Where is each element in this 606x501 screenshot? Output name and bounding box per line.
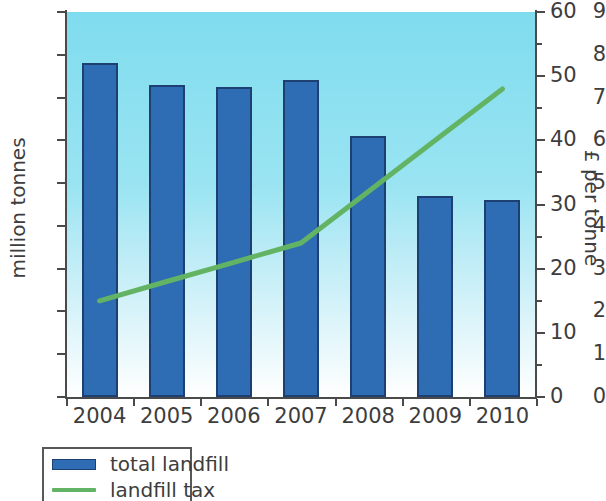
y-axis-right-minor-tick <box>536 43 542 45</box>
y-axis-left-tick <box>57 310 66 312</box>
y-axis-right-tick <box>536 332 545 334</box>
y-axis-right-minor-tick <box>536 171 542 173</box>
legend-label-total-landfill: total landfill <box>110 454 229 474</box>
y-axis-right-tick <box>536 11 545 13</box>
y-axis-right-tick <box>536 139 545 141</box>
y-axis-left-tick <box>57 97 66 99</box>
y-axis-left-tick-label: 7 <box>554 87 606 108</box>
y-axis-right-tick <box>536 268 545 270</box>
y-axis-left-tick <box>57 11 66 13</box>
x-axis-line <box>65 397 537 399</box>
y-axis-left-tick-label: 2 <box>554 300 606 321</box>
y-axis-left-tick <box>57 396 66 398</box>
line-series-landfill-tax <box>66 12 536 397</box>
y-axis-left-tick <box>57 353 66 355</box>
landfill-chart: 0123456789 0102030405060 200420052006200… <box>0 0 606 501</box>
x-axis-tick <box>536 399 538 406</box>
legend-item-landfill-tax: landfill tax <box>52 477 215 501</box>
legend-item-total-landfill: total landfill <box>52 451 229 477</box>
y-axis-right-minor-tick <box>536 364 542 366</box>
x-axis-label-2010: 2010 <box>457 404 547 428</box>
y-axis-right-title: £ per tonne <box>580 128 604 288</box>
y-axis-right-minor-tick <box>536 107 542 109</box>
y-axis-right-tick <box>536 396 545 398</box>
y-axis-left-tick <box>57 182 66 184</box>
y-axis-right-minor-tick <box>536 236 542 238</box>
legend-swatch-line-icon <box>52 488 96 492</box>
y-axis-right-tick-label: 10 <box>550 322 594 343</box>
legend-label-landfill-tax: landfill tax <box>110 480 215 500</box>
y-axis-right-tick-label: 0 <box>550 386 594 407</box>
y-axis-right-minor-tick <box>536 300 542 302</box>
y-axis-left-title: million tonnes <box>6 128 30 288</box>
y-axis-right-tick-label: 60 <box>550 1 594 22</box>
y-axis-right-tick <box>536 75 545 77</box>
y-axis-right-tick-label: 50 <box>550 65 594 86</box>
y-axis-left-tick <box>57 268 66 270</box>
chart-legend: total landfill landfill tax <box>42 447 192 501</box>
y-axis-left-line <box>65 10 67 399</box>
y-axis-right-tick <box>536 204 545 206</box>
y-axis-left-tick <box>57 225 66 227</box>
y-axis-left-tick <box>57 139 66 141</box>
y-axis-left-tick-label: 8 <box>554 44 606 65</box>
y-axis-left-tick <box>57 54 66 56</box>
legend-swatch-bar-icon <box>52 459 96 470</box>
y-axis-left-tick-label: 1 <box>554 343 606 364</box>
